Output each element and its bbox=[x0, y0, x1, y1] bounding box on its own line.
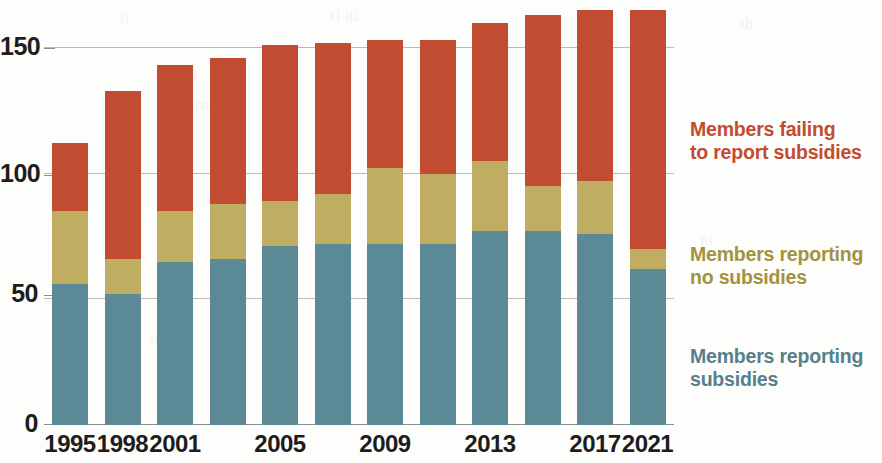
bar-segment-members-reporting-no-subsidies bbox=[472, 161, 508, 231]
bar-segment-members-failing-to-report-subsidies bbox=[157, 65, 193, 211]
legend-label-line1: Members reporting bbox=[690, 243, 882, 266]
legend-label-line2: no subsidies bbox=[690, 266, 882, 289]
legend-label-line2: subsidies bbox=[690, 368, 882, 391]
bar-segment-members-reporting-subsidies bbox=[525, 231, 561, 425]
bar-segment-members-reporting-no-subsidies bbox=[157, 211, 193, 261]
bar-segment-members-reporting-no-subsidies bbox=[105, 259, 141, 294]
bar-segment-members-reporting-no-subsidies bbox=[52, 211, 88, 284]
y-axis-tick-150: 150 bbox=[0, 34, 38, 59]
bar-segment-members-reporting-subsidies bbox=[157, 262, 193, 425]
bar-segment-members-reporting-no-subsidies bbox=[420, 174, 456, 244]
bar-segment-members-failing-to-report-subsidies bbox=[52, 143, 88, 211]
bar-segment-members-failing-to-report-subsidies bbox=[472, 23, 508, 161]
bar-segment-members-reporting-no-subsidies bbox=[577, 181, 613, 234]
stacked-bar-chart: ti ri itl th rl rn ni nt 150 100 50 0 19… bbox=[0, 0, 882, 463]
bar-2003[interactable] bbox=[210, 58, 246, 425]
bar-1998[interactable] bbox=[105, 91, 141, 425]
bar-segment-members-reporting-subsidies bbox=[262, 246, 298, 425]
y-axis-tick-100: 100 bbox=[0, 161, 38, 186]
y-axis-tick-50: 50 bbox=[0, 281, 38, 306]
x-axis-tick-2021: 2021 bbox=[608, 430, 688, 458]
bar-2019[interactable] bbox=[630, 10, 666, 425]
bar-1995[interactable] bbox=[52, 143, 88, 425]
x-axis-tick-2009: 2009 bbox=[345, 430, 425, 458]
bar-segment-members-failing-to-report-subsidies bbox=[577, 10, 613, 181]
bar-2007[interactable] bbox=[315, 43, 351, 425]
bar-2015[interactable] bbox=[525, 15, 561, 425]
bar-segment-members-reporting-no-subsidies bbox=[630, 249, 666, 269]
bar-segment-members-reporting-subsidies bbox=[472, 231, 508, 425]
bar-segment-members-failing-to-report-subsidies bbox=[525, 15, 561, 186]
plot-area bbox=[44, 10, 674, 425]
x-axis-tick-2013: 2013 bbox=[450, 430, 530, 458]
legend-label-line1: Members failing bbox=[690, 118, 882, 141]
bar-segment-members-reporting-subsidies bbox=[630, 269, 666, 425]
chart-legend: Members failing to report subsidies Memb… bbox=[690, 0, 882, 463]
bar-2005[interactable] bbox=[262, 45, 298, 425]
legend-entry-reporting: Members reporting subsidies bbox=[690, 345, 882, 391]
bar-segment-members-failing-to-report-subsidies bbox=[262, 45, 298, 201]
bar-segment-members-reporting-subsidies bbox=[367, 244, 403, 425]
bar-2009[interactable] bbox=[367, 40, 403, 425]
bar-2017[interactable] bbox=[577, 10, 613, 425]
bar-2011[interactable] bbox=[420, 40, 456, 425]
bar-segment-members-reporting-no-subsidies bbox=[525, 186, 561, 231]
bar-segment-members-failing-to-report-subsidies bbox=[105, 91, 141, 260]
legend-label-line2: to report subsidies bbox=[690, 141, 882, 164]
bar-segment-members-reporting-no-subsidies bbox=[367, 168, 403, 243]
bar-segment-members-reporting-no-subsidies bbox=[210, 204, 246, 259]
bar-segment-members-reporting-subsidies bbox=[105, 294, 141, 425]
bar-segment-members-failing-to-report-subsidies bbox=[420, 40, 456, 173]
legend-label-line1: Members reporting bbox=[690, 345, 882, 368]
bar-segment-members-reporting-no-subsidies bbox=[315, 194, 351, 244]
bar-segment-members-reporting-subsidies bbox=[420, 244, 456, 425]
bar-segment-members-reporting-subsidies bbox=[315, 244, 351, 425]
bar-segment-members-reporting-subsidies bbox=[52, 284, 88, 425]
x-axis-tick-2005: 2005 bbox=[240, 430, 320, 458]
bar-segment-members-failing-to-report-subsidies bbox=[367, 40, 403, 168]
bar-2001[interactable] bbox=[157, 65, 193, 425]
bar-segment-members-failing-to-report-subsidies bbox=[210, 58, 246, 204]
bar-segment-members-failing-to-report-subsidies bbox=[315, 43, 351, 194]
bar-segment-members-reporting-subsidies bbox=[210, 259, 246, 425]
bar-segment-members-reporting-subsidies bbox=[577, 234, 613, 425]
bar-segment-members-reporting-no-subsidies bbox=[262, 201, 298, 246]
x-axis-tick-2001: 2001 bbox=[135, 430, 215, 458]
legend-entry-failing: Members failing to report subsidies bbox=[690, 118, 882, 164]
bar-segment-members-failing-to-report-subsidies bbox=[630, 10, 666, 249]
legend-entry-no-subsidies: Members reporting no subsidies bbox=[690, 243, 882, 289]
bar-2013[interactable] bbox=[472, 23, 508, 425]
